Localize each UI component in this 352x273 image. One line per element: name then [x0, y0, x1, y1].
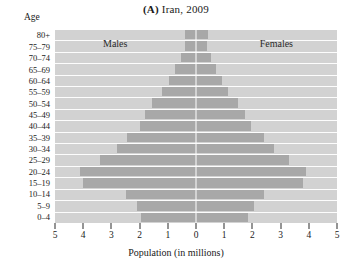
female-bar	[196, 133, 264, 142]
age-tick-label: 40–44	[0, 121, 53, 132]
age-axis-header: Age	[24, 12, 40, 22]
female-bar	[196, 53, 211, 62]
age-tick-label: 15–19	[0, 178, 53, 189]
female-bar	[196, 110, 245, 119]
age-tick-label: 60–64	[0, 75, 53, 86]
male-bar	[126, 190, 197, 199]
male-bar	[83, 178, 196, 187]
age-tick-label: 55–59	[0, 87, 53, 98]
male-bar	[117, 144, 196, 153]
males-label: Males	[103, 38, 127, 49]
figure-title: (A) Iran, 2009	[0, 3, 352, 15]
x-tick-label: 1	[165, 230, 170, 240]
male-bar	[175, 64, 196, 73]
female-bar	[196, 121, 251, 130]
male-bar	[100, 155, 196, 164]
x-tick-label: 0	[194, 230, 199, 240]
female-bar	[196, 41, 207, 50]
x-tick-label: 4	[81, 230, 86, 240]
x-axis-title: Population (in millions)	[0, 247, 352, 258]
male-bar	[127, 133, 196, 142]
x-tick-label: 2	[137, 230, 142, 240]
population-pyramid-figure: (A) Iran, 2009 Age 80+75–7970–7465–6960–…	[0, 0, 352, 273]
age-tick-label: 80+	[0, 30, 53, 41]
male-bar	[169, 76, 196, 85]
female-bar	[196, 167, 306, 176]
male-bar	[145, 110, 196, 119]
male-bar	[185, 41, 196, 50]
age-tick-label: 5–9	[0, 200, 53, 211]
age-tick-label: 50–54	[0, 98, 53, 109]
male-bar	[185, 30, 196, 39]
x-tick-label: 5	[53, 230, 58, 240]
female-bar	[196, 178, 303, 187]
age-tick-label: 65–69	[0, 64, 53, 75]
male-bar	[181, 53, 197, 62]
x-tick-mark	[224, 223, 225, 229]
figure-panel-tag: (A)	[143, 3, 159, 15]
age-axis-labels: 80+75–7970–7465–6960–6455–5950–5445–4940…	[0, 30, 53, 223]
age-tick-label: 45–49	[0, 110, 53, 121]
figure-title-text: Iran, 2009	[159, 3, 209, 15]
female-bar	[196, 213, 248, 222]
age-tick-label: 20–24	[0, 166, 53, 177]
age-tick-label: 75–79	[0, 41, 53, 52]
x-axis-tick-labels: 54321012345	[55, 230, 337, 244]
age-tick-label: 10–14	[0, 189, 53, 200]
female-bar	[196, 201, 254, 210]
female-bar	[196, 98, 238, 107]
x-tick-mark	[139, 223, 140, 229]
x-tick-label: 5	[335, 230, 340, 240]
x-tick-mark	[111, 223, 112, 229]
x-tick-mark	[308, 223, 309, 229]
female-bar	[196, 64, 216, 73]
females-label: Females	[260, 38, 293, 49]
x-axis-ticks	[55, 223, 337, 229]
age-tick-label: 70–74	[0, 53, 53, 64]
x-tick-label: 1	[222, 230, 227, 240]
x-tick-mark	[55, 223, 56, 229]
female-bar	[196, 155, 289, 164]
plot-area: Males Females	[55, 30, 337, 223]
x-tick-label: 4	[306, 230, 311, 240]
x-tick-mark	[167, 223, 168, 229]
zero-axis-line	[196, 30, 197, 223]
x-tick-mark	[280, 223, 281, 229]
female-bar	[196, 190, 264, 199]
x-tick-label: 3	[278, 230, 283, 240]
x-tick-mark	[337, 223, 338, 229]
male-bar	[162, 87, 196, 96]
male-bar	[80, 167, 196, 176]
age-tick-label: 0–4	[0, 212, 53, 223]
x-tick-mark	[252, 223, 253, 229]
age-tick-label: 25–29	[0, 155, 53, 166]
female-bar	[196, 87, 228, 96]
female-bar	[196, 76, 222, 85]
male-bar	[140, 121, 196, 130]
male-bar	[152, 98, 196, 107]
female-bar	[196, 144, 274, 153]
x-tick-mark	[83, 223, 84, 229]
x-tick-mark	[196, 223, 197, 229]
age-tick-label: 30–34	[0, 144, 53, 155]
age-tick-label: 35–39	[0, 132, 53, 143]
female-bar	[196, 30, 208, 39]
x-tick-label: 3	[109, 230, 114, 240]
x-tick-label: 2	[250, 230, 255, 240]
male-bar	[137, 201, 196, 210]
male-bar	[141, 213, 196, 222]
